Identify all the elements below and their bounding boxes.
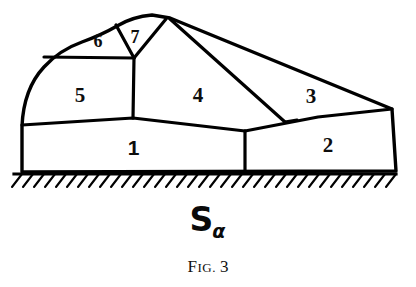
- region-label-5: 5: [75, 85, 86, 106]
- region-label-6: 6: [94, 32, 103, 50]
- region-label-3: 3: [306, 86, 317, 107]
- caption-smallcaps: IG.: [198, 260, 216, 275]
- figure-caption: FIG.3: [0, 258, 416, 275]
- region-label-2: 2: [323, 135, 334, 156]
- region-label-1: 1: [128, 137, 139, 158]
- diagram-canvas: [0, 0, 416, 287]
- ground-hatching: [12, 174, 396, 187]
- figure-3-diagram: 1 2 3 4 5 6 7 Sα FIG.3: [0, 0, 416, 287]
- caption-number: 3: [220, 257, 229, 276]
- region-label-4: 4: [193, 85, 204, 106]
- caption-prefix: F: [188, 257, 198, 276]
- divider-5-4: [133, 58, 134, 118]
- s-symbol-main: S: [190, 200, 214, 239]
- s-symbol-subscript: α: [212, 220, 225, 242]
- divider-67-base: [44, 57, 134, 58]
- s-alpha-symbol: Sα: [0, 203, 416, 236]
- divider-3-2-joint: [285, 120, 297, 122]
- region-label-7: 7: [131, 28, 140, 46]
